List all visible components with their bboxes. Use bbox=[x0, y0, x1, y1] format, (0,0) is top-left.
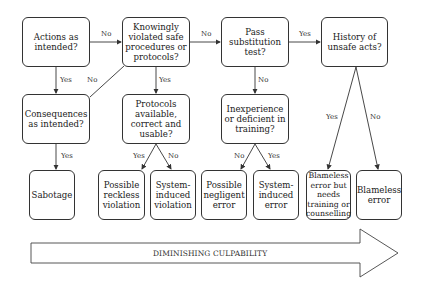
edge-label: No bbox=[87, 76, 97, 84]
edge-label: Yes bbox=[268, 152, 280, 160]
edge-label: No bbox=[201, 30, 211, 38]
edge-label: No bbox=[101, 30, 111, 38]
node-actions-as-intended: Actions as intended? bbox=[22, 17, 90, 67]
outcome-system-induced-violation: System-induced violation bbox=[150, 170, 196, 220]
outcome-system-induced-error: System-induced error bbox=[253, 170, 299, 220]
node-protocols-available: Protocols available, correct and usable? bbox=[122, 94, 190, 144]
node-inexperience: Inexperience or deficient in training? bbox=[221, 94, 289, 144]
culpability-arrow-label: DIMINISHING CULPABILITY bbox=[153, 249, 267, 258]
node-knowingly-violated: Knowingly violated safe procedures or pr… bbox=[122, 17, 190, 67]
outcome-blameless-error-needs-training: Blameless error but needs training or co… bbox=[306, 170, 351, 220]
edge-label: No bbox=[234, 152, 244, 160]
edge-label: Yes bbox=[299, 30, 311, 38]
edge-label: Yes bbox=[60, 76, 72, 84]
edge-label: Yes bbox=[61, 152, 73, 160]
edge-label: No bbox=[258, 76, 268, 84]
node-history-unsafe-acts: History of unsafe acts? bbox=[321, 17, 388, 67]
edge-label: Yes bbox=[133, 152, 145, 160]
edge-label: Yes bbox=[326, 113, 338, 121]
outcome-sabotage: Sabotage bbox=[29, 170, 75, 220]
outcome-possible-negligent-error: Possible negligent error bbox=[201, 170, 247, 220]
outcome-possible-reckless-violation: Possible reckless violation bbox=[98, 170, 145, 220]
node-consequences-as-intended: Consequences as intended? bbox=[22, 94, 90, 144]
edge-label: Yes bbox=[159, 76, 171, 84]
node-substitution-test: Pass substitution test? bbox=[221, 17, 289, 67]
edge-label: No bbox=[168, 152, 178, 160]
outcome-blameless-error: Blameless error bbox=[356, 170, 402, 220]
edge-label: No bbox=[370, 113, 380, 121]
